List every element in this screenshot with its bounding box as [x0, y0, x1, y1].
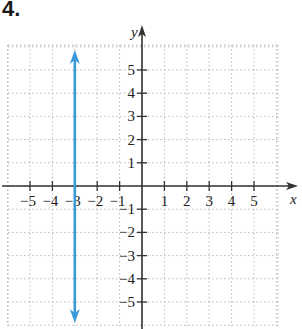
- y-tick-label: 5: [128, 62, 136, 78]
- x-tick-label: 5: [250, 193, 258, 209]
- x-tick-label: −4: [42, 193, 58, 209]
- x-tick-label: 3: [205, 193, 213, 209]
- y-tick-label: 3: [128, 108, 136, 124]
- y-tick-label: −5: [119, 294, 135, 310]
- coordinate-plane: −5−4−3−2−112345−5−4−3−2−112345 x y: [0, 0, 302, 329]
- x-tick-label: −3: [65, 193, 81, 209]
- y-tick-label: −3: [119, 248, 135, 264]
- y-tick-label: 1: [128, 155, 136, 171]
- y-axis-label: y: [129, 24, 138, 40]
- x-tick-label: 1: [161, 193, 169, 209]
- y-tick-label: 4: [128, 85, 136, 101]
- x-tick-label: −2: [87, 193, 103, 209]
- x-axis-label: x: [289, 191, 297, 207]
- x-tick-label: 4: [228, 193, 236, 209]
- x-tick-label: 2: [183, 193, 191, 209]
- x-tick-label: −5: [20, 193, 36, 209]
- y-tick-label: −4: [119, 271, 135, 287]
- y-tick-label: −1: [119, 201, 135, 217]
- y-tick-label: −2: [119, 224, 135, 240]
- y-tick-label: 2: [128, 132, 136, 148]
